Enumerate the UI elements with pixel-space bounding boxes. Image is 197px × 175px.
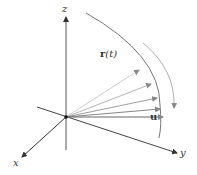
vector-curve-diagram	[0, 0, 197, 175]
x-axis-label: x	[13, 158, 19, 168]
origin-point	[64, 115, 68, 119]
unit-vector-label: u	[150, 112, 157, 122]
z-axis-label: z	[62, 4, 67, 14]
curve-label-arg: (t)	[105, 48, 117, 59]
curve-label: r(t)	[100, 49, 117, 59]
vector-2	[66, 84, 151, 117]
x-axis	[22, 117, 66, 157]
direction-arc	[143, 43, 174, 108]
vector-1	[66, 70, 139, 117]
y-axis-label: y	[180, 148, 186, 158]
vector-4	[66, 109, 160, 117]
vector-3	[66, 98, 157, 117]
